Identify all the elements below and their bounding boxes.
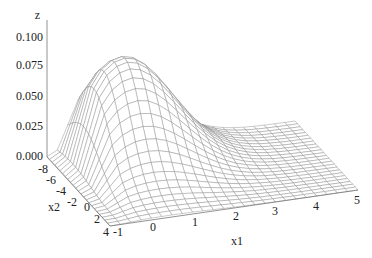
- x2-tick: 4: [103, 225, 109, 239]
- z-tick: 0.050: [16, 89, 43, 103]
- z-tick: 0.075: [16, 58, 43, 72]
- x2-tick: 0: [84, 200, 90, 214]
- z-tick: 0.000: [16, 149, 43, 163]
- x2-tick: -2: [67, 195, 77, 209]
- x2-tick: 2: [94, 212, 100, 226]
- x2-axis-label: x2: [48, 200, 60, 214]
- z-ticks: 0.000 0.025 0.050 0.075 0.100: [16, 30, 43, 163]
- x1-tick: 0: [150, 220, 156, 234]
- x1-tick: -1: [113, 225, 123, 239]
- x2-tick: -6: [46, 173, 56, 187]
- z-tick: 0.025: [16, 119, 43, 133]
- x1-tick: 5: [354, 193, 360, 207]
- x1-tick: 4: [313, 199, 319, 213]
- x1-tick: 1: [192, 215, 198, 229]
- x1-tick: 2: [233, 209, 239, 223]
- surface-plot: z 0.000 0.025 0.050 0.075 0.100 -8 -6 -4…: [0, 0, 372, 258]
- z-axis-label: z: [35, 8, 40, 22]
- x1-axis-label: x1: [231, 234, 243, 248]
- x2-tick: -4: [56, 184, 66, 198]
- surface-mesh: [47, 57, 358, 226]
- x1-tick: 3: [272, 204, 278, 218]
- z-tick: 0.100: [16, 30, 43, 44]
